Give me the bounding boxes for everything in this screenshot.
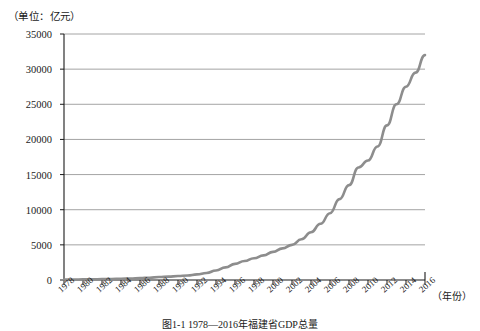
y-tick-label: 30000 <box>4 64 52 75</box>
y-tick-label: 10000 <box>4 204 52 215</box>
y-tick-label: 25000 <box>4 99 52 110</box>
y-tick-marks-group <box>60 34 64 280</box>
y-tick-label: 35000 <box>4 29 52 40</box>
y-tick-label: 5000 <box>4 239 52 250</box>
figure-caption: 图1-1 1978—2016年福建省GDP总量 <box>0 316 480 331</box>
gridlines-group <box>64 34 425 245</box>
y-tick-label: 20000 <box>4 134 52 145</box>
y-tick-label: 0 <box>4 275 52 286</box>
y-tick-label: 15000 <box>4 169 52 180</box>
gdp-series-line <box>64 55 425 279</box>
